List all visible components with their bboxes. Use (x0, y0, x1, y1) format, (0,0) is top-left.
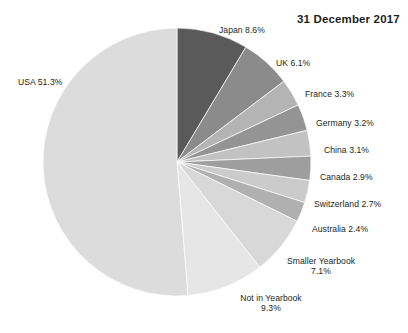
slice-label-china: China 3.1% (324, 145, 369, 155)
slice-label-not-in-yearbook: Not in Yearbook 9.3% (232, 293, 310, 314)
slice-label-not-in-yearbook-value: 9.3% (261, 303, 281, 313)
slice-label-japan: Japan 8.6% (219, 25, 265, 35)
slice-label-germany: Germany 3.2% (316, 118, 374, 128)
slice-label-smaller-yearbook-value: 7.1% (311, 266, 331, 276)
slice-label-canada: Canada 2.9% (320, 172, 373, 182)
slice-label-usa: USA 51.3% (18, 77, 62, 87)
slice-label-smaller-yearbook-name: Smaller Yearbook (287, 256, 355, 266)
pie-chart-figure: 31 December 2017 Japan 8.6% UK 6.1% Fran… (0, 0, 408, 333)
pie-slice-usa (43, 28, 188, 296)
chart-title: 31 December 2017 (297, 13, 400, 25)
pie-chart-canvas (0, 0, 408, 333)
slice-label-switzerland: Switzerland 2.7% (314, 199, 381, 209)
pie-slice-group (43, 28, 311, 296)
slice-label-uk: UK 6.1% (276, 58, 310, 68)
slice-label-france: France 3.3% (305, 89, 354, 99)
slice-label-australia: Australia 2.4% (312, 224, 368, 234)
slice-label-smaller-yearbook: Smaller Yearbook 7.1% (282, 256, 360, 277)
slice-label-not-in-yearbook-name: Not in Yearbook (240, 293, 301, 303)
